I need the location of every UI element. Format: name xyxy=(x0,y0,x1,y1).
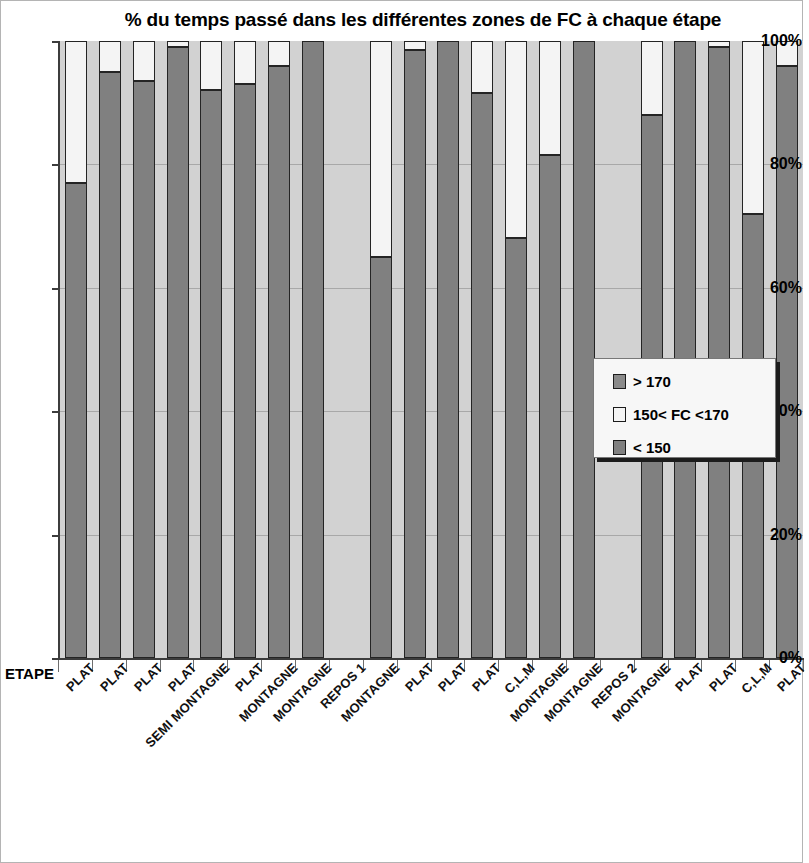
bar-segment xyxy=(539,155,561,658)
bar xyxy=(539,41,561,658)
bar-segment xyxy=(539,41,561,155)
legend-label: 150< FC <170 xyxy=(633,406,729,423)
bar-segment xyxy=(471,41,493,93)
bar xyxy=(133,41,155,658)
x-axis-tick-label: PLAT xyxy=(436,660,470,694)
bar-segment xyxy=(370,257,392,658)
legend-item: < 150 xyxy=(613,439,671,455)
bar-segment xyxy=(167,41,189,47)
x-axis-tick-label: PLAT xyxy=(673,660,707,694)
y-axis-tick-label: 60% xyxy=(748,279,802,297)
y-axis-tick-mark xyxy=(52,535,59,537)
bar-segment xyxy=(99,72,121,658)
x-axis-labels: PLATPLATPLATPLATSEMI MONTAGNEPLATMONTAGN… xyxy=(1,660,804,863)
legend: > 170150< FC <170< 150 xyxy=(593,358,776,458)
bar xyxy=(641,41,663,658)
x-axis-tick-label: PLAT xyxy=(706,660,740,694)
bar-segment xyxy=(708,47,730,658)
bar xyxy=(234,41,256,658)
bar-segment xyxy=(641,41,663,115)
bar xyxy=(437,41,459,658)
bar-segment xyxy=(370,41,392,257)
x-axis-tick-label: PLAT xyxy=(774,660,808,694)
bar-segment xyxy=(471,93,493,658)
plot-area xyxy=(58,41,803,658)
y-axis-tick-mark xyxy=(52,164,59,166)
x-axis-tick-label: PLAT xyxy=(97,660,131,694)
bar-segment xyxy=(200,90,222,658)
y-axis-tick-mark xyxy=(52,288,59,290)
legend-item: > 170 xyxy=(613,373,671,389)
bar-segment xyxy=(234,41,256,84)
x-axis-tick-label: PLAT xyxy=(131,660,165,694)
legend-swatch-icon xyxy=(613,374,626,389)
bar xyxy=(505,41,527,658)
chart-title: % du temps passé dans les différentes zo… xyxy=(73,9,773,31)
legend-swatch-icon xyxy=(613,407,626,422)
bar-segment xyxy=(302,41,324,658)
bar xyxy=(370,41,392,658)
bar-segment xyxy=(404,50,426,658)
bar-segment xyxy=(268,41,290,66)
bar-segment xyxy=(505,41,527,238)
y-axis-tick-label: 100% xyxy=(748,32,802,50)
bar-segment xyxy=(167,47,189,658)
x-axis-tick-label: PLAT xyxy=(469,660,503,694)
bar-segment xyxy=(200,41,222,90)
bar xyxy=(573,41,595,658)
bar xyxy=(674,41,696,658)
bar-segment xyxy=(505,238,527,658)
bar xyxy=(776,41,798,658)
bar-segment xyxy=(268,66,290,658)
bar-segment xyxy=(437,41,459,658)
bar-segment xyxy=(65,41,87,183)
bar xyxy=(200,41,222,658)
bar xyxy=(471,41,493,658)
bar xyxy=(167,41,189,658)
bar-segment xyxy=(404,41,426,50)
bar xyxy=(742,41,764,658)
bar-segment xyxy=(99,41,121,72)
legend-label: > 170 xyxy=(633,373,671,390)
bar-segment xyxy=(742,41,764,214)
y-axis-tick-mark xyxy=(52,41,59,43)
legend-label: < 150 xyxy=(633,439,671,456)
bar xyxy=(99,41,121,658)
x-axis-tick-label: PLAT xyxy=(63,660,97,694)
legend-swatch-icon xyxy=(613,440,626,455)
bar-segment xyxy=(133,81,155,658)
bar xyxy=(302,41,324,658)
x-axis-tick-label: C,L,M xyxy=(738,660,774,696)
y-axis-tick-label: 80% xyxy=(748,155,802,173)
bar xyxy=(268,41,290,658)
bar-segment xyxy=(133,41,155,81)
x-axis-tick-label: PLAT xyxy=(402,660,436,694)
bar-segment xyxy=(65,183,87,658)
bar-segment xyxy=(573,41,595,658)
bar xyxy=(404,41,426,658)
y-axis-line xyxy=(58,41,60,659)
bar-segment xyxy=(674,41,696,658)
legend-item: 150< FC <170 xyxy=(613,406,729,422)
bar-segment xyxy=(708,41,730,47)
bar xyxy=(708,41,730,658)
bar-segment xyxy=(234,84,256,658)
y-axis-tick-mark xyxy=(52,411,59,413)
bar xyxy=(65,41,87,658)
y-axis-tick-label: 20% xyxy=(748,526,802,544)
